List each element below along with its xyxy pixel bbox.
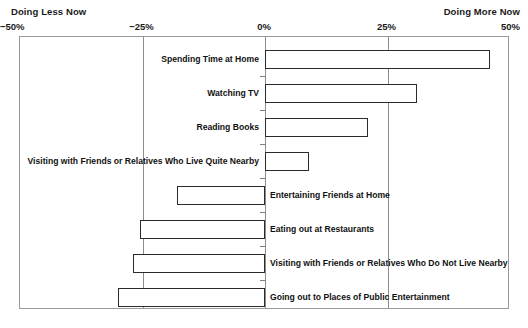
axis-tick-label: −25% (129, 21, 154, 32)
bar-category-label: Visiting with Friends or Relatives Who L… (28, 155, 259, 167)
axis-tick-label: 0% (257, 21, 271, 32)
bar-category-label: Reading Books (196, 121, 259, 133)
axis-tick-label: 25% (377, 21, 396, 32)
bar-category-label: Going out to Places of Public Entertainm… (270, 291, 450, 303)
bar-category-label: Visiting with Friends or Relatives Who D… (270, 257, 508, 269)
bar-row: Watching TV (20, 77, 508, 111)
bar-category-label: Entertaining Friends at Home (270, 189, 390, 201)
bar-row: Reading Books (20, 111, 508, 145)
bar[interactable] (265, 50, 490, 69)
bar-category-label: Watching TV (207, 87, 259, 99)
bar[interactable] (265, 84, 417, 103)
bar-category-label: Eating out at Restaurants (270, 223, 374, 235)
bar-row: Visiting with Friends or Relatives Who D… (20, 247, 508, 281)
bar[interactable] (133, 254, 265, 273)
plot-area: Spending Time at HomeWatching TVReading … (19, 36, 509, 309)
bar-row: Spending Time at Home (20, 43, 508, 77)
bar[interactable] (118, 288, 265, 307)
bar[interactable] (265, 152, 309, 171)
bar-row: Entertaining Friends at Home (20, 179, 508, 213)
bar[interactable] (177, 186, 265, 205)
bar-row: Going out to Places of Public Entertainm… (20, 281, 508, 315)
bar-row: Eating out at Restaurants (20, 213, 508, 247)
bar-row: Visiting with Friends or Relatives Who L… (20, 145, 508, 179)
horizontal-diverging-bar-chart: Doing Less Now Doing More Now −50%−25%0%… (0, 0, 528, 328)
bar[interactable] (265, 118, 368, 137)
doing-more-now-annotation: Doing More Now (444, 6, 520, 17)
axis-tick-label: −50% (0, 21, 25, 32)
bar[interactable] (140, 220, 265, 239)
axis-tick-label: 50% (501, 21, 520, 32)
doing-less-now-annotation: Doing Less Now (11, 6, 86, 17)
bar-category-label: Spending Time at Home (161, 53, 259, 65)
